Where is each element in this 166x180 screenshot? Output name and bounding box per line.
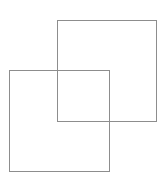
figure-canvas <box>0 0 166 180</box>
overlapping-squares-drawing <box>0 0 166 180</box>
